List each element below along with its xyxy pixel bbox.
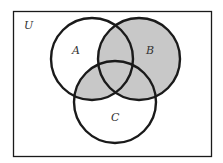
venn-diagram: U A B C (0, 0, 223, 163)
set-a-label: A (71, 44, 80, 57)
set-b-label: B (145, 44, 154, 57)
set-c-label: C (111, 111, 120, 124)
universe-label: U (24, 19, 34, 32)
